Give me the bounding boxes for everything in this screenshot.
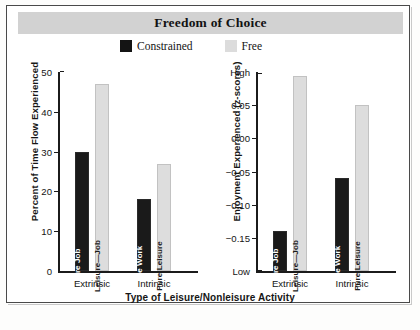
legend: Constrained Free — [120, 38, 320, 54]
y-axis-tick — [258, 270, 262, 271]
bar-pure-work: Pure Work — [137, 199, 151, 271]
legend-label-constrained: Constrained — [137, 40, 193, 52]
group-label-extrinsic: Extrinsic — [272, 278, 308, 289]
group-label-intrinsic: Intrinsic — [137, 278, 170, 289]
bar-pure-work: Pure Work — [335, 178, 349, 271]
title-banner: Freedom of Choice — [18, 12, 403, 34]
y-axis-tick — [60, 272, 64, 273]
y-axis-line-left — [58, 72, 60, 273]
legend-item-free: Free — [225, 40, 262, 52]
y-axis-tick-label: 0 — [47, 266, 52, 277]
y-axis-tick-label: 40 — [41, 106, 52, 117]
bar-pure-job: Pure Job — [273, 231, 287, 271]
plot-area-left: 01020304050Pure JobLeisure—JobPure WorkP… — [58, 72, 198, 272]
y-axis-tick-label: 0.05 — [231, 100, 250, 111]
y-axis-tick — [252, 172, 257, 173]
bar-pure-job: Pure Job — [75, 152, 89, 271]
y-axis-tick — [54, 231, 59, 232]
bar-leisure-job: Leisure—Job — [95, 84, 109, 271]
y-axis-tick-label: −0.15 — [226, 232, 250, 243]
y-axis-tick-label: 50 — [41, 67, 52, 78]
bar-pure-leisure: Pure Leisure — [157, 164, 171, 271]
chart-panel-left: Percent of Time Flow Experienced 0102030… — [10, 62, 208, 294]
y-axis-tick — [54, 112, 59, 113]
legend-item-constrained: Constrained — [120, 40, 193, 52]
legend-swatch-free — [225, 40, 237, 52]
bar-leisure-job: Leisure—Job — [293, 76, 307, 271]
y-axis-tick — [54, 152, 59, 153]
y-axis-label-left: Percent of Time Flow Experienced — [29, 52, 40, 232]
chart-panel-right: Enjoyment Experienced (z-scores) High0.0… — [208, 62, 406, 294]
y-axis-tick-label: High — [230, 67, 250, 78]
y-axis-tick — [252, 205, 257, 206]
y-axis-tick-label: 30 — [41, 146, 52, 157]
y-axis-line-right — [256, 72, 258, 273]
y-axis-tick-label: 10 — [41, 226, 52, 237]
y-axis-tick-label: Low — [232, 266, 250, 277]
figure-title: Freedom of Choice — [154, 15, 267, 31]
x-axis-label: Type of Leisure/Nonleisure Activity — [0, 292, 420, 303]
group-label-extrinsic: Extrinsic — [74, 278, 110, 289]
bar-pure-leisure: Pure Leisure — [355, 105, 369, 271]
y-axis-tick — [54, 191, 59, 192]
legend-swatch-constrained — [120, 40, 132, 52]
y-axis-tick-label: −0.10 — [226, 199, 250, 210]
y-axis-tick-label: 0.00 — [231, 133, 250, 144]
group-label-intrinsic: Intrinsic — [335, 278, 368, 289]
y-axis-tick-label: −0.05 — [226, 166, 250, 177]
plot-area-right: High0.050.00−0.05−0.10−0.15LowPure JobLe… — [256, 72, 396, 272]
figure: Freedom of Choice Constrained Free Perce… — [0, 0, 420, 330]
y-axis-tick — [258, 73, 262, 74]
legend-label-free: Free — [242, 40, 262, 52]
y-axis-tick — [252, 238, 257, 239]
y-axis-tick — [60, 71, 64, 72]
y-axis-tick-label: 20 — [41, 186, 52, 197]
y-axis-tick — [252, 105, 257, 106]
y-axis-tick — [252, 138, 257, 139]
